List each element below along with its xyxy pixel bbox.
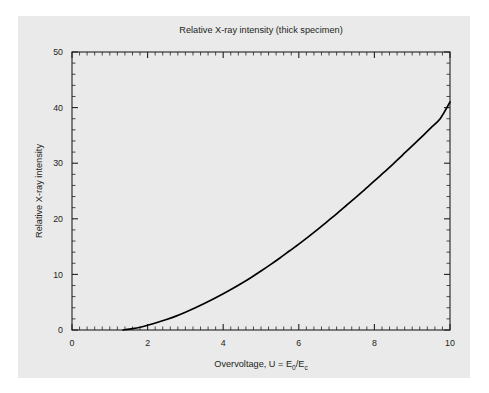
chart-title: Relative X-ray intensity (thick specimen…	[179, 25, 342, 35]
x-axis-tick-labels: 0246810	[70, 338, 455, 348]
x-axis-label: Overvoltage, U = E0/Ec	[214, 359, 308, 371]
figure-root: Relative X-ray intensity (thick specimen…	[0, 0, 489, 393]
x-tick-label: 8	[372, 338, 377, 348]
x-tick-label: 10	[445, 338, 455, 348]
x-tick-label: 4	[221, 338, 226, 348]
y-tick-label: 50	[53, 47, 63, 57]
axis-ticks	[72, 52, 450, 330]
x-axis-label-mid: /E	[296, 359, 305, 369]
x-axis-label-main: Overvoltage, U = E	[214, 359, 292, 369]
y-axis-label: Relative X-ray intensity	[34, 144, 44, 238]
x-tick-label: 0	[70, 338, 75, 348]
x-tick-label: 6	[296, 338, 301, 348]
chart-canvas: Relative X-ray intensity (thick specimen…	[0, 0, 489, 393]
y-tick-label: 40	[53, 103, 63, 113]
svg-text:Overvoltage, U = E0/Ec: Overvoltage, U = E0/Ec	[214, 359, 308, 371]
x-tick-label: 2	[145, 338, 150, 348]
plot-frame	[72, 52, 450, 330]
y-axis-tick-labels: 01020304050	[53, 47, 63, 335]
y-tick-label: 10	[53, 270, 63, 280]
y-tick-label: 0	[58, 325, 63, 335]
data-curve-relative-xray-intensity	[123, 102, 450, 330]
x-axis-label-sub-c: c	[304, 364, 308, 371]
y-tick-label: 30	[53, 158, 63, 168]
y-tick-label: 20	[53, 214, 63, 224]
